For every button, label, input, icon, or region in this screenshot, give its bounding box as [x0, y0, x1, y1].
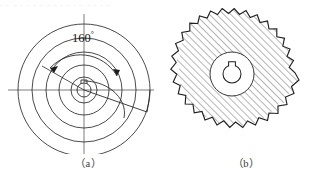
hub-keyway — [229, 62, 236, 67]
subfigure-a-caption: （a） — [28, 155, 148, 170]
hub-bore — [223, 65, 241, 83]
spiral-riser-step — [147, 90, 150, 112]
figure-root: . . . . . . . . . . . . . . . . . — [0, 0, 316, 178]
angle-dimension-value: 160 — [72, 31, 91, 45]
subfigure-b-drawing — [160, 8, 306, 154]
subfigure-b-caption: （b） — [186, 155, 306, 170]
cropped-text-remnant: . . . . . . . . . . . . . . . . . — [0, 0, 316, 7]
angle-dimension-label: 160° — [72, 30, 94, 46]
degree-symbol: ° — [91, 30, 94, 39]
